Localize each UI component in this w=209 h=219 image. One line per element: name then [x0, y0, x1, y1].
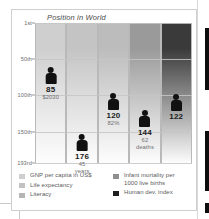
legend-column-left: GNP per capita in US$Life expectancyLite…	[18, 172, 114, 201]
gridline	[35, 23, 192, 24]
gridline	[35, 132, 192, 133]
person-body	[108, 99, 119, 110]
person-icon	[107, 93, 120, 110]
legend-swatch-icon	[112, 190, 120, 197]
data-marker[interactable]: 85$2030	[42, 67, 59, 101]
marker-detail-line-1: 82%	[107, 120, 121, 127]
person-body	[45, 73, 56, 84]
marker-detail-line-1: 45	[75, 161, 90, 168]
legend-item[interactable]: Literacy	[18, 191, 114, 199]
y-axis-tick-mark	[32, 23, 35, 24]
y-axis-tick-mark	[32, 131, 35, 132]
legend-column-right: Infant mortality per1000 live birthsHuma…	[112, 172, 196, 199]
chart-title: Position in World	[47, 13, 106, 22]
y-axis-tick-label: 50th	[21, 56, 32, 62]
legend-item-label: GNP per capita in US$	[30, 172, 92, 180]
person-icon	[170, 94, 183, 111]
y-axis-tick-label: 100th	[18, 92, 33, 98]
chart-column	[161, 23, 192, 163]
marker-rank-value: 144	[136, 128, 154, 137]
legend-item-label: Infant mortality per1000 live births	[124, 172, 175, 187]
data-marker[interactable]: 17645years	[75, 134, 90, 175]
legend-swatch-icon	[18, 173, 26, 180]
right-divider-line	[197, 0, 198, 219]
y-axis-tick-label: 150th	[18, 129, 33, 135]
data-marker[interactable]: 122	[169, 94, 183, 121]
y-axis-tick-label: 193rd	[17, 160, 32, 166]
data-marker[interactable]: 14462deaths	[136, 110, 154, 151]
y-axis-tick-mark	[32, 58, 35, 59]
legend-item-label: Literacy	[30, 191, 51, 199]
legend-swatch-icon	[112, 173, 120, 180]
marker-rank-value: 120	[107, 111, 121, 120]
data-marker[interactable]: 12082%	[107, 93, 121, 127]
y-axis-tick-label: 1st	[24, 20, 32, 26]
person-body	[139, 116, 150, 127]
marker-rank-value: 122	[169, 112, 183, 121]
gridline	[35, 163, 192, 164]
y-axis-tick-mark	[32, 95, 35, 96]
marker-rank-value: 85	[42, 85, 59, 94]
legend-item[interactable]: Infant mortality per1000 live births	[112, 172, 196, 187]
plot-area: 1st50th100th150th193rd85$203017645years1…	[35, 23, 192, 163]
legend-item-label: Life expectancy	[30, 182, 72, 190]
gridline	[35, 59, 192, 60]
legend-item[interactable]: Life expectancy	[18, 182, 114, 190]
legend-swatch-icon	[18, 182, 26, 189]
legend-item[interactable]: GNP per capita in US$	[18, 172, 114, 180]
person-icon	[76, 134, 89, 151]
legend-item[interactable]: Human dev. index	[112, 189, 196, 197]
screenshot-root: Position in World 1st50th100th150th193rd…	[0, 0, 209, 219]
legend-item-label: Human dev. index	[124, 189, 173, 197]
marker-rank-value: 176	[75, 152, 90, 161]
person-body	[77, 140, 88, 151]
person-body	[171, 100, 182, 111]
edge-bar-top	[205, 28, 209, 90]
y-axis-tick-mark	[32, 163, 35, 164]
marker-detail-line-2: deaths	[136, 144, 154, 151]
chart-panel: Position in World 1st50th100th150th193rd…	[11, 9, 197, 211]
person-icon	[138, 110, 151, 127]
legend-swatch-icon	[18, 192, 26, 199]
person-icon	[44, 67, 57, 84]
edge-bar-middle	[205, 131, 209, 191]
edge-bar-bottom	[205, 203, 209, 213]
chart-legend: GNP per capita in US$Life expectancyLite…	[12, 172, 196, 210]
marker-detail-line-1: $2030	[42, 94, 59, 101]
marker-detail-line-1: 62	[136, 137, 154, 144]
